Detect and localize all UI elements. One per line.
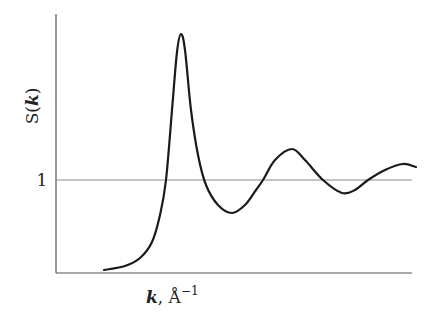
structure-factor-chart: S(k) 1 k, Å−1 — [0, 0, 446, 320]
structure-factor-curve — [104, 34, 416, 270]
y-axis-label: S(k) — [22, 88, 42, 125]
y-tick-one: 1 — [37, 170, 48, 190]
x-axis-label: k, Å−1 — [146, 284, 199, 307]
